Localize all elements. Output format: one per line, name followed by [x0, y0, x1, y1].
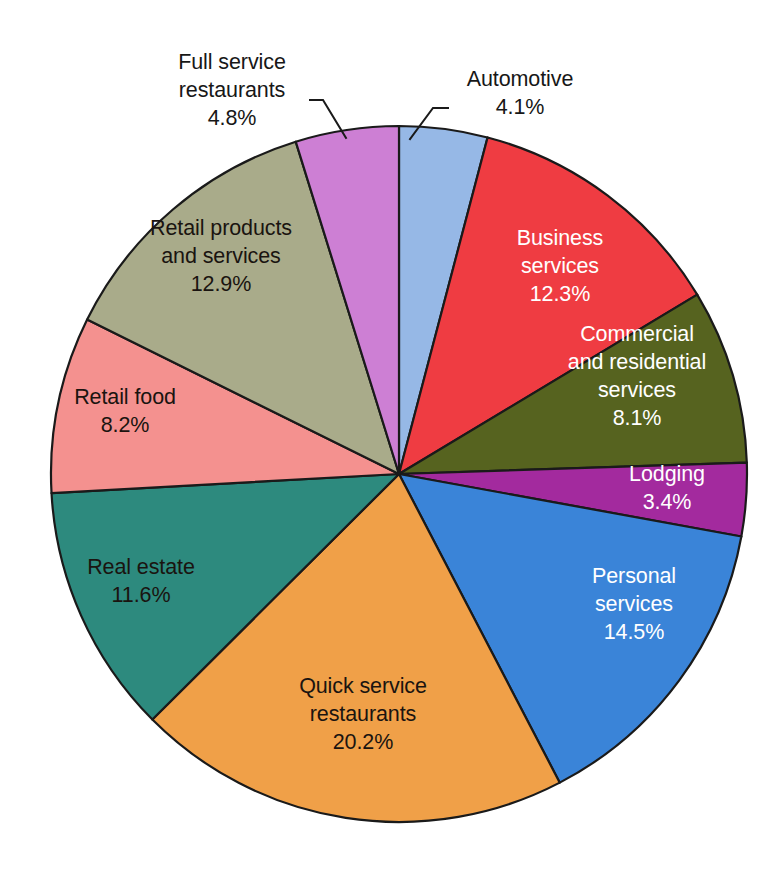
- pie-label-line: 14.5%: [604, 620, 664, 644]
- pie-label-line: 4.1%: [496, 95, 545, 119]
- pie-label-line: 12.9%: [191, 272, 251, 296]
- pie-label-line: Lodging: [629, 462, 705, 486]
- pie-label-line: services: [521, 254, 599, 278]
- pie-label-line: restaurants: [310, 702, 416, 726]
- pie-label-line: 3.4%: [643, 490, 692, 514]
- pie-label-line: Retail food: [74, 385, 176, 409]
- pie-label-line: Automotive: [467, 67, 574, 91]
- pie-label-full-service-restaurants: Full servicerestaurants4.8%: [178, 50, 286, 130]
- pie-label-line: Quick service: [299, 674, 427, 698]
- pie-label-line: Commercial: [580, 322, 694, 346]
- pie-chart-svg: Automotive4.1%Businessservices12.3%Comme…: [0, 0, 778, 870]
- pie-label-line: 4.8%: [208, 106, 257, 130]
- pie-label-personal-services: Personalservices14.5%: [592, 564, 676, 644]
- pie-label-line: services: [598, 378, 676, 402]
- pie-label-line: Retail products: [150, 216, 292, 240]
- pie-label-line: Real estate: [87, 555, 195, 579]
- pie-label-line: and services: [161, 244, 281, 268]
- pie-label-line: Business: [517, 226, 603, 250]
- pie-label-line: 20.2%: [333, 730, 393, 754]
- pie-chart-figure: Automotive4.1%Businessservices12.3%Comme…: [0, 0, 778, 870]
- pie-label-line: 12.3%: [530, 282, 590, 306]
- pie-label-line: services: [595, 592, 673, 616]
- pie-label-automotive: Automotive4.1%: [467, 67, 574, 119]
- pie-label-line: restaurants: [179, 78, 285, 102]
- pie-label-line: 11.6%: [112, 583, 171, 607]
- pie-label-line: 8.1%: [613, 406, 662, 430]
- pie-label-line: Personal: [592, 564, 676, 588]
- pie-label-line: Full service: [178, 50, 286, 74]
- pie-label-line: 8.2%: [101, 413, 150, 437]
- pie-label-line: and residential: [568, 350, 706, 374]
